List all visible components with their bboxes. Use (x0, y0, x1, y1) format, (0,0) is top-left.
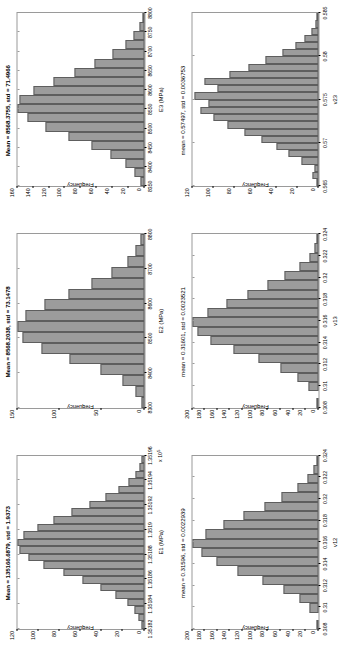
y-tick-mark (16, 186, 17, 188)
y-tick-mark (216, 629, 217, 631)
x-grid-tick (17, 31, 19, 32)
y-tick-mark (279, 408, 280, 410)
x-tick-mark (318, 298, 320, 299)
x-tick-mark (144, 372, 146, 373)
histogram-bar (23, 531, 143, 539)
plot-area-E1: Frequency E1 (MPa) x 105 020406080100120… (16, 455, 145, 630)
x-grid-tick (192, 455, 194, 456)
x-tick-mark (318, 12, 320, 13)
x-grid-tick (192, 476, 194, 477)
histogram-bar (315, 20, 318, 27)
y-tick-mark (127, 186, 128, 188)
x-tick-label: 8800 (146, 229, 152, 241)
histogram-bar (111, 267, 143, 278)
y-tick-label: 40 (284, 410, 290, 416)
histogram-bar (283, 585, 318, 594)
histogram-bar (128, 478, 144, 486)
histogram-bar (19, 95, 143, 104)
histogram-bar (17, 539, 144, 547)
x-tick-label: 0.322 (321, 471, 327, 484)
xlabel-v12: v12 (331, 456, 337, 629)
histogram-bar (194, 93, 318, 100)
x-tick-mark (144, 455, 146, 456)
x-tick-mark (144, 554, 146, 555)
histogram-bar (133, 31, 143, 40)
x-tick-label: 1.35192 (146, 496, 152, 515)
x-tick-mark (318, 498, 320, 499)
panel-E2: Mean = 8568.2038, std = 73.1478 Frequenc… (0, 221, 175, 442)
x-tick-mark (144, 51, 146, 52)
y-tick-mark (63, 186, 64, 188)
histogram-bar (127, 599, 144, 607)
histogram-bar (316, 456, 318, 465)
x-tick-mark (144, 603, 146, 604)
histogram-bar (258, 354, 318, 363)
x-tick-label: 0.308 (321, 401, 327, 414)
x-tick-mark (144, 303, 146, 304)
x-tick-mark (318, 320, 320, 321)
histogram-bar (312, 172, 318, 179)
histogram-bar (301, 157, 318, 164)
x-grid-tick (192, 255, 194, 256)
y-tick-label: 100 (29, 631, 35, 640)
x-tick-mark (318, 563, 320, 564)
x-tick-label: 8400 (146, 161, 152, 173)
y-tick-label: 60 (246, 188, 252, 194)
x-tick-mark (144, 12, 146, 13)
x-tick-label: 8400 (146, 367, 152, 379)
x-tick-label: 1.35186 (146, 570, 152, 589)
histogram-bar (91, 278, 143, 289)
y-tick-mark (100, 408, 101, 410)
x-tick-mark (144, 268, 146, 269)
y-tick-label: 80 (258, 631, 264, 637)
x-tick-label: 0.324 (321, 228, 327, 241)
x-tick-label: 0.314 (321, 336, 327, 349)
x-tick-label: 8700 (146, 263, 152, 275)
histogram-bar (100, 364, 144, 375)
x-grid-tick (192, 520, 194, 521)
x-grid-tick (192, 233, 194, 234)
xlabel-v23: v23 (331, 13, 337, 186)
x-tick-mark (318, 277, 320, 278)
y-tick-label: 120 (40, 188, 46, 197)
x-tick-label: 0.318 (321, 514, 327, 527)
histogram-bar (19, 546, 143, 554)
histogram-bar (244, 129, 318, 136)
y-tick-mark (143, 408, 144, 410)
histogram-bar (309, 603, 318, 612)
y-tick-mark (317, 629, 318, 631)
histogram-bar (82, 576, 143, 584)
y-tick-label: 20 (296, 410, 302, 416)
histogram-bar (192, 317, 319, 326)
histogram-bar (135, 386, 143, 397)
y-tick-label: 0 (309, 188, 315, 191)
histogram-bar (316, 13, 318, 20)
x-tick-mark (318, 99, 320, 100)
y-tick-label: 160 (208, 410, 214, 419)
y-tick-mark (254, 408, 255, 410)
histogram-bar (140, 234, 143, 245)
histogram-bar (138, 614, 143, 622)
histogram-bar (100, 584, 143, 592)
x-tick-label: 0.312 (321, 358, 327, 371)
y-tick-mark (191, 186, 192, 188)
x-grid-tick (192, 541, 194, 542)
x-tick-label: 0.57 (321, 138, 327, 148)
x-grid-tick (17, 108, 19, 109)
histogram-bar (295, 42, 318, 49)
histogram-bar (68, 132, 143, 141)
histogram-bar (125, 159, 144, 168)
y-tick-label: 120 (8, 631, 14, 640)
x-tick-label: 0.316 (321, 536, 327, 549)
histogram-bar (237, 566, 318, 575)
x-tick-label: 8800 (146, 7, 152, 19)
y-tick-label: 120 (233, 631, 239, 640)
bars-E3 (17, 13, 144, 186)
histogram-bar (297, 373, 319, 382)
y-tick-label: 140 (220, 410, 226, 419)
y-tick-mark (254, 629, 255, 631)
y-tick-label: 100 (246, 410, 252, 419)
exponent-base: x 10 (156, 452, 162, 462)
histogram-bar (115, 591, 143, 599)
x-grid-tick (192, 407, 194, 408)
